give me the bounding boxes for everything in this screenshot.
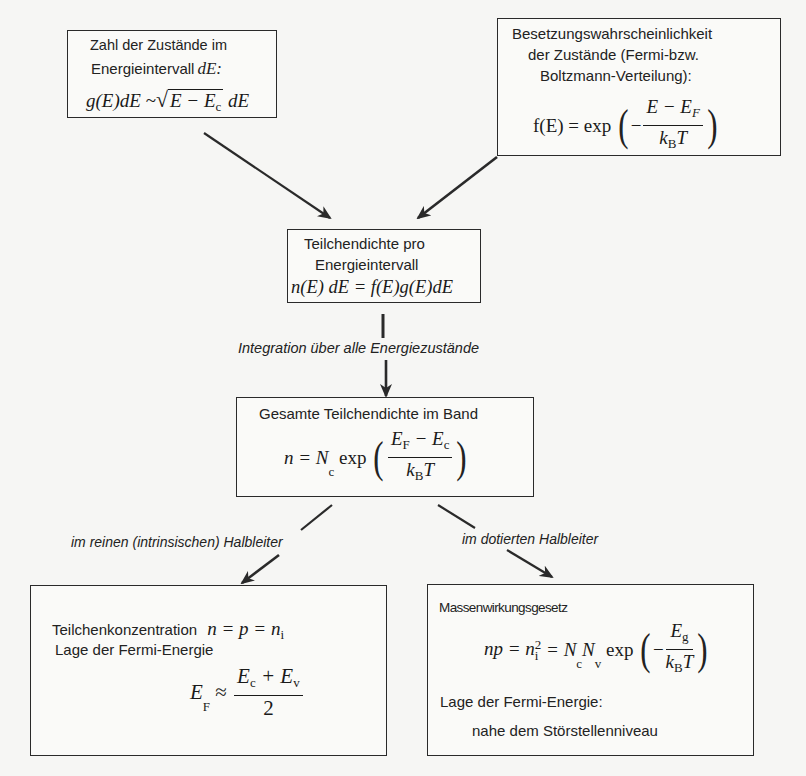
doped-num-text: E xyxy=(670,620,682,641)
intrinsic-line1-math: n = p = ni xyxy=(207,618,284,639)
doped-formula: np = n2i = NcNv exp (− Eg kBT ) xyxy=(484,620,710,679)
occ-num: E − EF xyxy=(643,96,703,126)
occ-formula-lhs: f(E) = exp xyxy=(533,115,611,136)
doped-num: Eg xyxy=(666,620,694,650)
occ-formula: f(E) = exp (− E − EF kBT ) xyxy=(533,96,720,155)
intrinsic-math-sub: i xyxy=(280,627,284,642)
doped-line3: nahe dem Störstellenniveau xyxy=(472,722,658,739)
intrinsic-num-b-sub: v xyxy=(293,675,300,690)
doped-fraction: Eg kBT xyxy=(666,620,694,679)
doped-num-sub: g xyxy=(682,629,689,644)
arrow-total-to-intrinsic-upper xyxy=(301,505,332,530)
occ-num-text: E − E xyxy=(646,96,692,117)
occ-den-text: k xyxy=(659,127,667,148)
dos-line2: EnergieintervalldE: xyxy=(91,59,222,79)
occ-line3: Boltzmann-Verteilung): xyxy=(540,67,692,84)
total-den: kBT xyxy=(388,458,453,487)
dos-formula-rel: ~ xyxy=(146,90,156,111)
dos-line1: Zahl der Zustände im xyxy=(90,37,227,53)
doped-den-text: k xyxy=(666,651,674,672)
doped-line2: Lage der Fermi-Energie: xyxy=(440,693,603,710)
doped-b: = N xyxy=(541,639,576,660)
doped-line1: Massenwirkungsgesetz xyxy=(439,600,567,615)
paren-open-icon: ( xyxy=(373,438,383,478)
total-den-text: k xyxy=(406,459,414,480)
intrinsic-den: 2 xyxy=(234,696,303,719)
occ-num-sub: F xyxy=(692,105,700,120)
total-den-tail: T xyxy=(423,459,434,480)
doped-a-text: np = n xyxy=(484,638,535,659)
occ-line2: der Zustände (Fermi-bzw. xyxy=(528,46,699,63)
dos-sqrt-arg: E − E xyxy=(170,90,216,111)
arrow-total-to-doped-upper xyxy=(438,505,475,528)
doped-den-sub: B xyxy=(674,660,683,675)
total-title: Gesamte Teilchendichte im Band xyxy=(259,405,478,422)
intrinsic-fraction: Ec + Ev 2 xyxy=(234,665,303,719)
total-fn: exp xyxy=(339,447,366,468)
total-num-a: E xyxy=(391,428,403,449)
dos-line2-math: dE: xyxy=(197,59,222,78)
dos-line2-text: Energieintervall xyxy=(91,60,194,77)
intrinsic-num-op: + E xyxy=(256,664,294,688)
paren-close-icon: ) xyxy=(697,630,707,670)
doped-den: kBT xyxy=(666,650,694,679)
doped-fn: exp xyxy=(606,639,633,660)
intrinsic-num: Ec + Ev xyxy=(234,665,303,696)
doped-c: N xyxy=(582,639,595,660)
paren-close-icon: ) xyxy=(457,438,467,478)
doped-a: np = n2i xyxy=(484,638,541,659)
occ-formula-sign: − xyxy=(631,115,642,136)
total-formula: n = Nc exp ( EF − Ec kBT ) xyxy=(284,428,469,487)
paren-open-icon: ( xyxy=(618,106,628,146)
arrow-dos-to-density xyxy=(204,133,330,218)
total-num: EF − Ec xyxy=(388,428,453,458)
arrow-total-to-doped-lower xyxy=(507,550,552,577)
intrinsic-math-text: n = p = n xyxy=(207,618,280,639)
total-lhs: n = N xyxy=(284,447,329,468)
edge-label-intrinsic: im reinen (intrinsischen) Halbleiter xyxy=(71,534,283,550)
intrinsic-rel: ≈ xyxy=(215,680,227,704)
dos-sqrt-sub: c xyxy=(216,99,222,114)
flowchart-canvas: Zahl der Zustände im EnergieintervalldE:… xyxy=(0,0,806,776)
intrinsic-formula: EF ≈ Ec + Ev 2 xyxy=(190,665,305,719)
edge-label-integration: Integration über alle Energiezustände xyxy=(238,340,479,356)
intrinsic-line1: Teilchenkonzentration n = p = ni xyxy=(52,618,284,643)
edge-label-doped: im dotierten Halbleiter xyxy=(462,531,598,547)
arrow-occupation-to-density xyxy=(418,157,497,218)
pdi-line2: Energieintervall xyxy=(315,256,418,273)
dos-formula-tail: dE xyxy=(228,90,249,111)
intrinsic-line1-text: Teilchenkonzentration xyxy=(52,621,197,638)
pdi-formula: n(E) dE = f(E)g(E)dE xyxy=(291,277,453,298)
total-lhs-sub: c xyxy=(329,464,335,479)
dos-formula-sqrt: E − Ec xyxy=(168,89,223,111)
sqrt-icon: √ xyxy=(156,87,168,112)
doped-den-tail: T xyxy=(683,651,694,672)
occ-line1: Besetzungswahrscheinlichkeit xyxy=(512,25,712,42)
intrinsic-line2: Lage der Fermi-Energie xyxy=(55,641,213,658)
total-num-b-sub: c xyxy=(444,437,450,452)
doped-c-sub: v xyxy=(595,656,602,671)
dos-formula-lhs: g(E)dE xyxy=(86,90,141,111)
total-num-a-sub: F xyxy=(402,437,409,452)
total-fraction: EF − Ec kBT xyxy=(388,428,453,487)
pdi-line1: Teilchendichte pro xyxy=(304,235,425,252)
occ-den-tail: T xyxy=(676,127,687,148)
arrow-total-to-intrinsic-lower xyxy=(242,555,279,583)
total-num-op: − E xyxy=(410,428,444,449)
occ-den: kBT xyxy=(643,126,703,155)
intrinsic-num-a: E xyxy=(237,664,250,688)
intrinsic-lhs-sub: F xyxy=(203,699,210,714)
paren-close-icon: ) xyxy=(707,106,717,146)
intrinsic-lhs: E xyxy=(190,680,203,704)
paren-open-icon: ( xyxy=(640,630,650,670)
doped-sign: − xyxy=(653,639,664,660)
dos-formula: g(E)dE ~√E − Ec dE xyxy=(86,87,249,115)
occ-fraction: E − EF kBT xyxy=(643,96,703,155)
